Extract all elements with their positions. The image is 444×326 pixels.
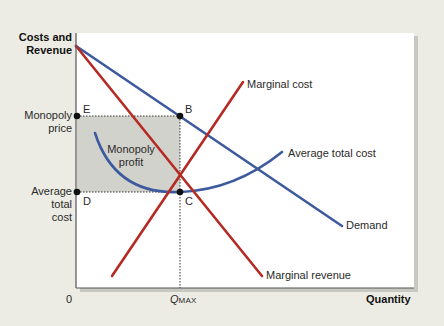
- qmax-label-sub: MAX: [179, 296, 197, 305]
- qmax-label-q: Q: [170, 293, 179, 305]
- point-c: [177, 189, 184, 196]
- profit-label-line2: profit: [105, 156, 157, 169]
- demand-label: Demand: [346, 219, 388, 232]
- marginal-cost-label: Marginal cost: [247, 78, 312, 91]
- y-axis-label: Costs and Revenue: [10, 31, 72, 57]
- monopoly-price-line2: price: [10, 122, 72, 135]
- point-b-label: B: [185, 103, 192, 116]
- point-e: [74, 113, 81, 120]
- monopoly-price-label: Monopoly price: [10, 109, 72, 135]
- point-c-label: C: [185, 195, 193, 208]
- qmax-label: QMAX: [170, 293, 197, 307]
- atc-tick-line2: total: [10, 198, 72, 211]
- point-d-label: D: [83, 195, 91, 208]
- point-d: [74, 189, 81, 196]
- atc-tick-line3: cost: [10, 211, 72, 224]
- average-total-cost-tick-label: Average total cost: [10, 185, 72, 224]
- marginal-revenue-label: Marginal revenue: [266, 269, 351, 282]
- atc-tick-line1: Average: [10, 185, 72, 198]
- profit-label-line1: Monopoly: [105, 143, 157, 156]
- y-axis-label-line2: Revenue: [10, 44, 72, 57]
- y-axis-label-line1: Costs and: [10, 31, 72, 44]
- point-b: [177, 113, 184, 120]
- origin-label: 0: [66, 293, 72, 306]
- x-axis-label: Quantity: [366, 293, 411, 306]
- monopoly-price-line1: Monopoly: [10, 109, 72, 122]
- point-e-label: E: [83, 103, 90, 116]
- monopoly-profit-label: Monopoly profit: [105, 143, 157, 169]
- average-total-cost-label: Average total cost: [288, 147, 376, 160]
